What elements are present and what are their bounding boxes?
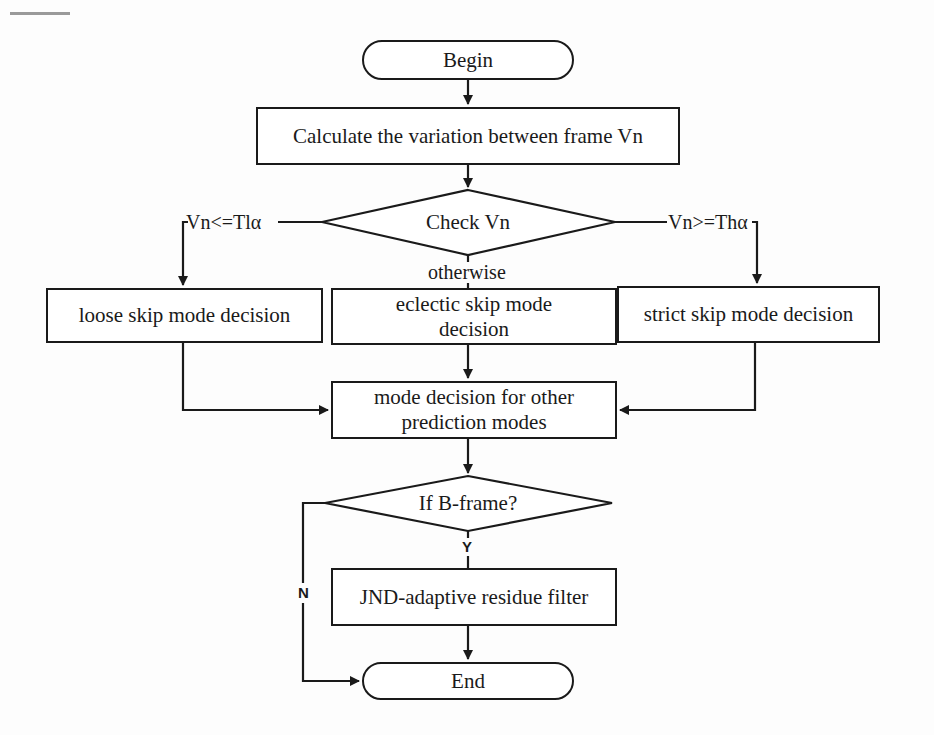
bframe-label: If B-frame? [400, 491, 536, 515]
check-vn-label: Check Vn [400, 210, 536, 234]
edge-bframe-end-a [303, 503, 325, 583]
edge-check-strict-b [752, 222, 757, 283]
mode-decision-node: mode decision for other prediction modes [331, 381, 617, 439]
edge-label-yes: Y [462, 538, 472, 555]
eclectic-skip-label-line1: eclectic skip mode [396, 292, 552, 317]
edge-label-otherwise: otherwise [428, 261, 506, 283]
mode-decision-label-line1: mode decision for other [374, 385, 574, 410]
jnd-filter-label: JND-adaptive residue filter [360, 585, 589, 610]
edge-label-no: N [298, 584, 309, 601]
strict-skip-label: strict skip mode decision [644, 302, 853, 327]
document-page: Begin Calculate the variation between fr… [0, 0, 934, 735]
jnd-filter-node: JND-adaptive residue filter [331, 568, 617, 626]
loose-skip-label: loose skip mode decision [79, 303, 291, 328]
end-label: End [451, 669, 485, 694]
edge-loose-mode [183, 343, 328, 410]
strict-skip-node: strict skip mode decision [617, 286, 880, 343]
eclectic-skip-node: eclectic skip mode decision [331, 288, 617, 345]
begin-node: Begin [362, 40, 574, 80]
end-node: End [362, 662, 574, 700]
eclectic-skip-label-line2: decision [439, 317, 509, 342]
loose-skip-node: loose skip mode decision [46, 288, 323, 343]
calculate-variation-node: Calculate the variation between frame Vn [256, 107, 680, 165]
calculate-variation-label: Calculate the variation between frame Vn [293, 124, 643, 149]
edge-label-low-threshold: Vn<=Tlα [186, 211, 261, 233]
mode-decision-label-line2: prediction modes [401, 410, 546, 435]
edge-strict-mode [620, 343, 755, 410]
edge-label-high-threshold: Vn>=Thα [668, 211, 748, 233]
begin-label: Begin [443, 48, 493, 73]
